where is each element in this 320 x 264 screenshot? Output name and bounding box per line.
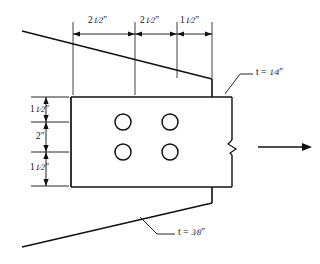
lower-member-sloped-edge [22,203,212,247]
dim-arrow-v3-bottom [43,179,48,186]
section-break-zigzag-icon [228,140,236,155]
dim-arrow-h2-right [170,31,177,36]
center-gusset-plate [71,97,236,187]
drawing-svg [0,0,320,264]
dim-label-vertical-3: 11⁄2″ [30,163,49,173]
callout-leader-lines [140,74,253,234]
dim-label-horizontal-2: 21⁄2″ [140,16,159,26]
technical-drawing-canvas: 21⁄2″ 21⁄2″ 11⁄2″ 11⁄2″ 2″ 11⁄2″ t = 1⁄4… [0,0,320,264]
dim-arrow-v3-top [43,152,48,159]
lower-tapered-member [22,187,212,247]
leader-lower-thickness [140,217,175,234]
callout-label-lower-thickness: t = 3⁄8″ [178,228,205,238]
bolt-hole-group [115,114,178,160]
bolt-hole-bottom-right [162,144,178,160]
dim-label-horizontal-3: 11⁄2″ [180,16,199,26]
callout-label-upper-thickness: t = 1⁄4″ [256,68,283,78]
dim-arrow-v1-bottom [43,115,48,122]
upper-member-sloped-edge [22,31,212,79]
dim-arrow-h3-left [177,31,184,36]
dim-arrow-v2-bottom [43,145,48,152]
bolt-hole-bottom-left [115,144,131,160]
upper-tapered-member [22,31,212,97]
dim-arrow-h1-right [128,31,135,36]
horizontal-extension-lines [73,22,212,95]
dim-arrow-h3-right [205,31,212,36]
horizontal-dimension-lines [73,31,212,36]
dim-label-vertical-2: 2″ [36,132,45,142]
leader-upper-thickness [225,74,253,94]
bolt-hole-top-right [162,114,178,130]
dim-arrow-h2-left [135,31,142,36]
dim-label-vertical-1: 11⁄2″ [30,105,49,115]
dim-arrow-h1-left [73,31,80,36]
applied-load-arrow [258,143,312,151]
dim-arrow-v1-top [43,97,48,104]
load-arrow-head [302,143,312,151]
dim-arrow-v2-top [43,122,48,129]
dim-label-horizontal-1: 21⁄2″ [88,16,107,26]
bolt-hole-top-left [115,114,131,130]
